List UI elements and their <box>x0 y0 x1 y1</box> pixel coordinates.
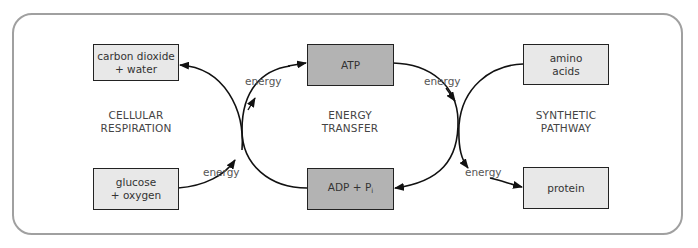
node-label: + oxygen <box>111 189 161 202</box>
arrow-atp-energy <box>446 88 455 101</box>
node-protein: protein <box>523 167 609 209</box>
arrow-to-protein <box>490 178 522 187</box>
section-label-line: SYNTHETIC <box>513 109 619 122</box>
node-label: ATP <box>341 59 360 72</box>
node-label: carbon dioxide <box>97 50 175 63</box>
node-label: ADP + P <box>328 181 371 193</box>
node-label: protein <box>547 182 584 195</box>
node-adp-pi: ADP + Pi <box>307 168 394 210</box>
energy-label-left-top: energy <box>245 75 282 87</box>
node-carbon-dioxide-water: carbon dioxide + water <box>93 44 179 81</box>
section-cellular-respiration: CELLULAR RESPIRATION <box>83 109 189 135</box>
node-amino-acids: amino acids <box>523 44 609 85</box>
node-label: acids <box>550 65 583 78</box>
node-label: amino <box>550 52 583 65</box>
energy-label-right-top: energy <box>424 75 461 87</box>
section-synthetic-pathway: SYNTHETIC PATHWAY <box>513 109 619 135</box>
node-label: + water <box>97 63 175 76</box>
node-label: glucose <box>111 176 161 189</box>
node-atp: ATP <box>307 44 394 86</box>
section-label-line: CELLULAR <box>83 109 189 122</box>
section-label-line: PATHWAY <box>513 122 619 135</box>
node-glucose-oxygen: glucose + oxygen <box>93 168 179 210</box>
energy-label-right-bottom: energy <box>465 166 502 178</box>
section-label-line: RESPIRATION <box>83 122 189 135</box>
section-label-line: TRANSFER <box>297 122 403 135</box>
arrow-to-atp <box>288 63 306 66</box>
arrow-adp-energy <box>248 98 255 110</box>
section-energy-transfer: ENERGY TRANSFER <box>297 109 403 135</box>
energy-label-left-bottom: energy <box>203 166 240 178</box>
section-label-line: ENERGY <box>297 109 403 122</box>
node-subscript: i <box>371 187 373 195</box>
arrow-to-carbon-dioxide <box>180 65 242 150</box>
